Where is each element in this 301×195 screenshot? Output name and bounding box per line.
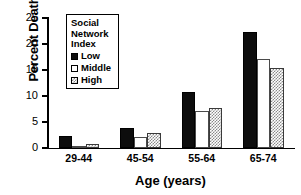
legend-label-low: Low (81, 51, 100, 61)
y-tick-mark (42, 43, 47, 45)
bar-middle (134, 137, 148, 148)
x-tick-label: 45-54 (110, 152, 170, 164)
bar-low (59, 136, 73, 148)
legend-item-middle: Middle (71, 63, 118, 74)
y-tick-label: 10 (12, 90, 38, 101)
legend-item-high: High (71, 75, 118, 86)
y-tick-mark (42, 69, 47, 71)
y-tick-mark (42, 95, 47, 97)
y-tick-mark (42, 147, 47, 149)
x-axis-label: Age (years) (40, 173, 301, 188)
y-tick-mark (42, 17, 47, 19)
legend-label-middle: Middle (81, 63, 111, 73)
bar-high (86, 144, 100, 148)
y-tick-mark (42, 121, 47, 123)
y-tick-label: 20 (12, 38, 38, 49)
y-tick-label: 5 (12, 116, 38, 127)
bar-group (171, 18, 233, 148)
legend-swatch-middle-icon (71, 65, 78, 72)
bar-high (270, 68, 284, 148)
x-tick-label: 29-44 (49, 152, 109, 164)
legend-title: Social Network Index (71, 18, 118, 50)
legend-label-high: High (81, 75, 102, 85)
bar-low (243, 32, 257, 148)
bar-group (233, 18, 295, 148)
bar-chart-figure: Percent Deaths Age (years) 0510152025 29… (0, 0, 301, 195)
bar-low (120, 128, 134, 148)
bar-middle (257, 59, 271, 148)
y-tick-label: 0 (12, 142, 38, 153)
bar-middle (72, 146, 86, 148)
legend-swatch-low-icon (71, 53, 78, 60)
y-tick-label: 25 (12, 12, 38, 23)
legend-item-low: Low (71, 51, 118, 62)
bar-high (147, 133, 161, 148)
x-tick-label: 65-74 (233, 152, 293, 164)
legend-swatch-high-icon (71, 77, 78, 84)
bar-high (209, 108, 223, 148)
bar-low (182, 92, 196, 148)
legend-title-line-1: Social (71, 18, 118, 29)
legend-title-line-3: Index (71, 39, 118, 50)
legend: Social Network Index Low Middle High (66, 14, 119, 89)
y-tick-label: 15 (12, 64, 38, 75)
bar-middle (195, 111, 209, 148)
x-tick-label: 55-64 (172, 152, 232, 164)
